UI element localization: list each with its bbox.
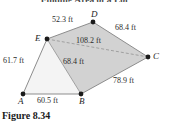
length-label-ab: 60.5 ft [37, 97, 58, 105]
figure-container: Finding Area of a Lot A B C D E 52.3 ft … [0, 0, 169, 125]
vertex-label-e: E [35, 34, 41, 43]
vertex-label-b: B [79, 97, 85, 106]
length-label-ed: 52.3 ft [52, 16, 73, 24]
vertex-label-a: A [18, 97, 24, 106]
length-label-dc: 68.4 ft [115, 24, 136, 32]
vertex-dot-c [146, 55, 151, 60]
vertex-label-c: C [153, 52, 159, 61]
vertex-dot-e [45, 37, 50, 42]
length-label-eb: 68.4 ft [63, 58, 84, 66]
figure-caption: Figure 8.34 [2, 110, 50, 121]
lot-diagram [0, 0, 169, 125]
vertex-label-d: D [91, 10, 98, 19]
length-label-bc: 78.9 ft [113, 77, 134, 85]
vertex-dot-d [91, 20, 96, 25]
length-label-ae: 61.7 ft [3, 57, 24, 65]
length-label-ec: 108.2 ft [76, 37, 101, 45]
